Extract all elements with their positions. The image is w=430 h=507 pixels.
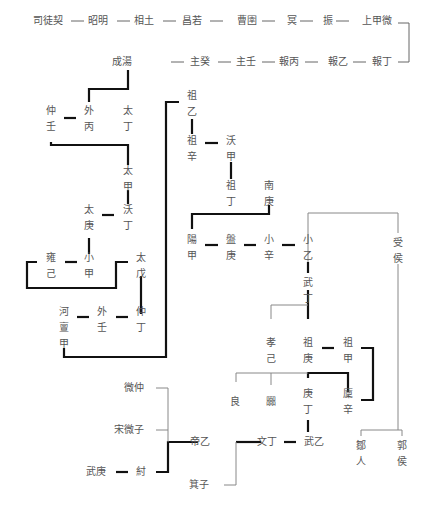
node-nie: 嚻: [266, 396, 276, 408]
node-songweizi: 宋微子: [114, 424, 144, 436]
node-taiwu: 太戊: [135, 250, 146, 282]
node-xiaojia: 小甲: [83, 250, 94, 282]
node-xiaoxin: 小辛: [263, 232, 274, 264]
node-wuyi: 武乙: [304, 436, 324, 448]
node-xiaoji: 孝己: [265, 335, 276, 367]
node-baobing: 報丙: [279, 56, 299, 68]
node-muren: 鄒人: [355, 438, 366, 470]
node-xiangtu: 相土: [134, 15, 154, 27]
node-nangeng: 南庚: [263, 178, 274, 210]
node-jizi: 箕子: [189, 479, 209, 491]
node-yongji: 雍己: [45, 250, 56, 282]
node-shouhou: 受侯: [392, 235, 403, 267]
node-xiaoyi: 小乙: [302, 232, 313, 264]
node-wairen: 外壬: [96, 304, 107, 336]
node-hedanjia: 河亶甲: [58, 304, 69, 352]
node-zhongding: 仲丁: [135, 304, 146, 336]
node-taigeng: 太庚: [83, 202, 94, 234]
node-zhongren: 仲壬: [45, 103, 56, 135]
node-zuding: 祖丁: [225, 178, 236, 210]
node-situxie: 司徒契: [33, 15, 63, 27]
node-wugeng: 武庚: [86, 466, 106, 478]
node-pangeng: 盤庚: [225, 232, 236, 264]
node-zhen: 振: [323, 15, 333, 27]
node-wuding: 武丁: [302, 275, 313, 307]
node-zhaoming: 昭明: [88, 15, 108, 27]
node-zuxin: 祖辛: [186, 133, 197, 165]
node-baoyi: 報乙: [328, 56, 348, 68]
node-zuyi: 祖乙: [186, 88, 197, 120]
node-baoding: 報丁: [372, 56, 392, 68]
node-taiding: 太丁: [122, 103, 133, 135]
node-guohou: 郭侯: [396, 438, 407, 470]
node-waibing: 外丙: [83, 103, 94, 135]
connector-lines: [0, 0, 430, 507]
node-wending: 文丁: [257, 436, 277, 448]
node-diyi: 帝乙: [190, 436, 210, 448]
node-zhugui: 主癸: [190, 56, 210, 68]
node-ming: 冥: [287, 15, 297, 27]
node-liang: 良: [230, 396, 240, 408]
node-caoyu: 曹圉: [237, 15, 257, 27]
node-taijia: 太甲: [122, 163, 133, 195]
node-wojia: 沃甲: [225, 133, 236, 165]
node-zhuren: 主壬: [236, 56, 256, 68]
node-yangjia: 陽甲: [186, 232, 197, 264]
node-gengding: 庚丁: [302, 386, 313, 418]
node-changruo: 昌若: [182, 15, 202, 27]
node-chengtang: 成湯: [112, 56, 132, 68]
node-zujia: 祖甲: [342, 335, 353, 367]
node-zhou: 紂: [136, 466, 146, 478]
node-zugeng: 祖庚: [302, 335, 313, 367]
node-shangjiawei: 上甲微: [362, 15, 392, 27]
node-woding: 沃丁: [122, 202, 133, 234]
node-linxin: 廩辛: [342, 386, 353, 418]
node-weizhong: 微仲: [124, 382, 144, 394]
